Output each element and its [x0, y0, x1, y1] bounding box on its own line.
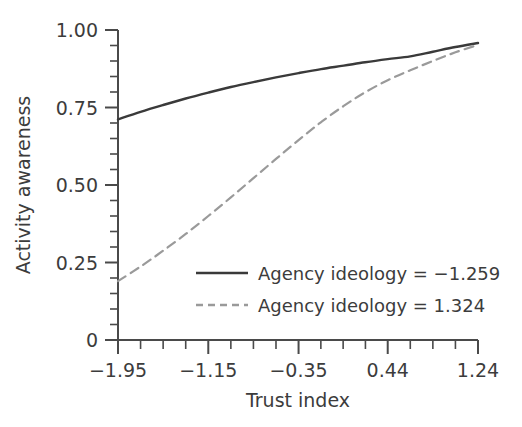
x-tick-label: −1.15: [179, 359, 237, 381]
x-axis-title: Trust index: [245, 389, 350, 411]
x-tick-label: 1.24: [457, 359, 499, 381]
y-axis-title: Activity awareness: [12, 96, 34, 275]
chart-svg: 1.000.750.500.250 −1.95−1.15−0.350.441.2…: [0, 0, 522, 427]
y-tick-label: 1.00: [56, 19, 98, 41]
y-tick-label: 0.75: [56, 97, 98, 119]
legend-label-solid: Agency ideology = −1.259: [258, 263, 500, 284]
y-tick-label: 0.50: [56, 174, 98, 196]
legend-label-dashed: Agency ideology = 1.324: [258, 295, 485, 316]
chart-figure: 1.000.750.500.250 −1.95−1.15−0.350.441.2…: [0, 0, 522, 427]
x-tick-label: −1.95: [89, 359, 147, 381]
y-tick-label: 0.25: [56, 252, 98, 274]
x-tick-label: −0.35: [269, 359, 327, 381]
x-tick-label: 0.44: [367, 359, 409, 381]
y-tick-label: 0: [86, 329, 98, 351]
chart-background: [0, 0, 522, 427]
